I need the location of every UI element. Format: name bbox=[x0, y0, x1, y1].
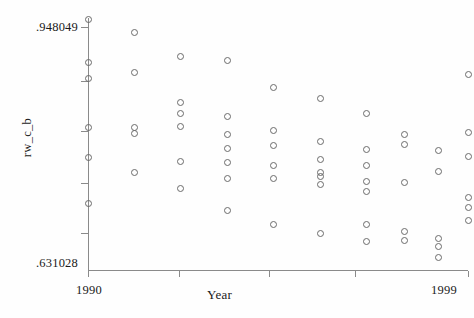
data-point bbox=[85, 16, 92, 23]
data-point bbox=[224, 145, 231, 152]
data-point bbox=[224, 57, 231, 64]
data-point bbox=[85, 154, 92, 161]
x-axis-tick bbox=[468, 271, 469, 277]
data-point bbox=[177, 110, 184, 117]
data-point bbox=[363, 162, 370, 169]
data-point bbox=[224, 113, 231, 120]
data-point bbox=[435, 254, 442, 261]
data-point bbox=[224, 159, 231, 166]
data-point bbox=[401, 141, 408, 148]
y-axis-tick bbox=[81, 183, 88, 184]
data-point bbox=[224, 175, 231, 182]
data-point bbox=[270, 142, 277, 149]
data-point bbox=[177, 123, 184, 130]
x-axis-tick bbox=[269, 271, 270, 277]
x-axis-tick bbox=[355, 271, 356, 277]
data-point bbox=[363, 238, 370, 245]
data-point bbox=[317, 173, 324, 180]
data-point bbox=[270, 127, 277, 134]
data-point bbox=[401, 179, 408, 186]
data-point bbox=[401, 237, 408, 244]
data-point bbox=[224, 207, 231, 214]
data-point bbox=[131, 29, 138, 36]
data-point bbox=[465, 71, 472, 78]
data-point bbox=[363, 221, 370, 228]
data-point bbox=[270, 221, 277, 228]
data-point bbox=[131, 169, 138, 176]
y-axis-title: rw_c_b bbox=[20, 103, 35, 173]
data-point bbox=[270, 84, 277, 91]
data-point bbox=[435, 243, 442, 250]
data-point bbox=[465, 194, 472, 201]
data-point bbox=[317, 138, 324, 145]
data-point bbox=[317, 230, 324, 237]
data-point bbox=[317, 156, 324, 163]
data-point bbox=[224, 131, 231, 138]
data-point bbox=[401, 131, 408, 138]
data-point bbox=[435, 235, 442, 242]
y-axis-tick bbox=[81, 233, 88, 234]
data-point bbox=[131, 130, 138, 137]
data-point bbox=[85, 59, 92, 66]
x-axis-tick bbox=[179, 271, 180, 277]
y-axis-max-label: .948049 bbox=[20, 20, 78, 35]
data-point bbox=[363, 188, 370, 195]
x-axis-max-label: 1999 bbox=[423, 283, 465, 298]
x-axis-min-label: 1990 bbox=[68, 283, 110, 298]
data-point bbox=[177, 158, 184, 165]
data-point bbox=[177, 53, 184, 60]
data-point bbox=[465, 129, 472, 136]
data-point bbox=[435, 147, 442, 154]
data-point bbox=[363, 178, 370, 185]
data-point bbox=[85, 200, 92, 207]
data-point bbox=[465, 153, 472, 160]
plot-area bbox=[88, 18, 468, 270]
y-axis-min-label: .631028 bbox=[20, 256, 78, 271]
data-point bbox=[270, 162, 277, 169]
data-point bbox=[270, 175, 277, 182]
data-point bbox=[317, 95, 324, 102]
x-axis-tick bbox=[88, 271, 89, 277]
data-point bbox=[177, 185, 184, 192]
data-point bbox=[435, 168, 442, 175]
data-point bbox=[177, 99, 184, 106]
data-point bbox=[363, 146, 370, 153]
data-point bbox=[401, 228, 408, 235]
data-point bbox=[131, 69, 138, 76]
scatter-plot-figure: .948049 .631028 rw_c_b 1990 1999 Year bbox=[0, 0, 474, 318]
y-axis-tick bbox=[81, 27, 88, 28]
data-point bbox=[465, 204, 472, 211]
data-point bbox=[465, 217, 472, 224]
data-point bbox=[363, 110, 370, 117]
data-point bbox=[317, 181, 324, 188]
x-axis-title: Year bbox=[207, 287, 232, 303]
x-axis-line bbox=[88, 270, 468, 271]
